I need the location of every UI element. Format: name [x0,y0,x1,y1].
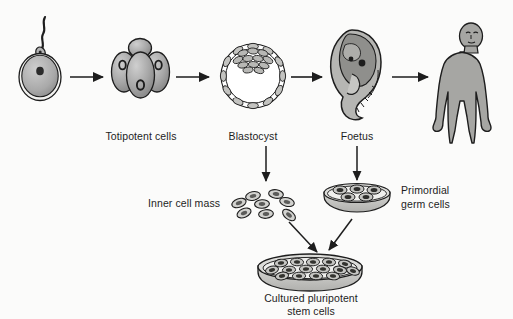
diagram-canvas [0,0,513,319]
label-primordial-germ-cells-line1: Primordial [401,184,449,197]
arrow-germ-cells-to-culture [329,219,352,250]
morula-icon [112,39,170,99]
petri-dish-large-icon [258,254,362,291]
arrow-inner-cell-mass-to-culture [289,222,317,252]
label-primordial-germ-cells-line2: germ cells [401,198,450,211]
label-foetus: Foetus [341,130,374,143]
label-blastocyst: Blastocyst [229,130,278,143]
petri-dish-small-icon [324,184,390,213]
label-totipotent-cells: Totipotent cells [105,130,176,143]
label-cultured-pluripotent-line1: Cultured pluripotent [264,292,358,305]
ovum-with-sperm-icon [19,17,61,101]
foetus-icon [331,30,381,120]
adult-human-icon [433,23,491,143]
label-inner-cell-mass: Inner cell mass [148,197,220,210]
scattered-cells-icon [231,189,298,223]
label-cultured-pluripotent-line2: stem cells [287,305,335,318]
stem-cell-development-diagram: Totipotent cells Blastocyst Foetus Inner… [0,0,513,319]
blastocyst-icon [220,43,285,108]
